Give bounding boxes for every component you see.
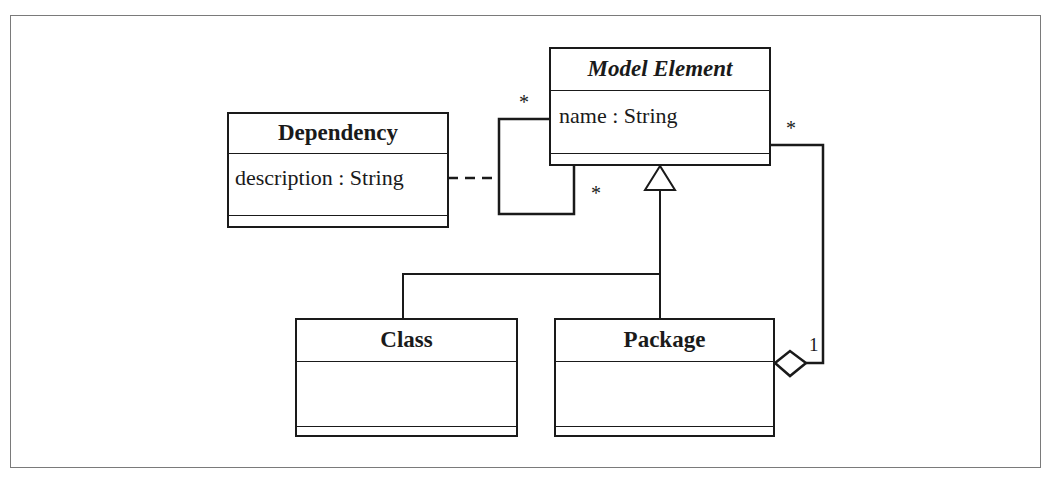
- attribute: name : String: [551, 91, 769, 154]
- class-name: Dependency: [229, 114, 447, 154]
- operations-compartment: [229, 216, 447, 226]
- attribute: description : String: [229, 154, 447, 216]
- class-box-model-element[interactable]: Model Element name : String: [549, 47, 771, 166]
- attributes-compartment: [297, 362, 516, 427]
- multiplicity-self-bottom: *: [591, 183, 601, 203]
- multiplicity-aggregation-part: *: [786, 118, 796, 138]
- class-name: Package: [556, 320, 773, 362]
- class-box-class[interactable]: Class: [295, 318, 518, 437]
- operations-compartment: [297, 427, 516, 435]
- attributes-compartment: [556, 362, 773, 427]
- aggregation-line: [770, 145, 823, 363]
- connector-layer: [0, 0, 1061, 484]
- operations-compartment: [556, 427, 773, 435]
- operations-compartment: [551, 154, 769, 164]
- multiplicity-self-top: *: [519, 92, 529, 112]
- aggregation-diamond-icon: [775, 351, 806, 376]
- multiplicity-aggregation-whole: 1: [809, 335, 819, 354]
- generalization-branch-class: [403, 274, 660, 318]
- class-box-package[interactable]: Package: [554, 318, 775, 437]
- generalization-triangle-icon: [645, 166, 675, 190]
- class-name: Model Element: [551, 49, 769, 91]
- class-box-dependency[interactable]: Dependency description : String: [227, 112, 449, 228]
- class-name: Class: [297, 320, 516, 362]
